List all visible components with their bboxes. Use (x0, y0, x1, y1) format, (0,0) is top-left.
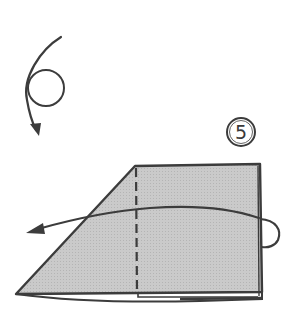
folded-paper (16, 164, 262, 296)
origami-diagram: 5 (0, 0, 303, 317)
step-number-badge: 5 (227, 118, 255, 146)
turn-over-icon (26, 37, 64, 136)
step-number: 5 (235, 121, 247, 143)
valley-fold-line (136, 168, 137, 292)
